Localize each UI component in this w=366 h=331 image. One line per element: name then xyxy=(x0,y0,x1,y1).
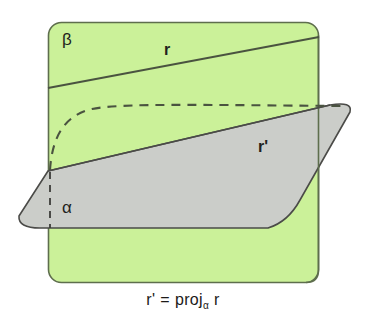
projection-figure: β α r r' r'=projαr xyxy=(0,0,366,331)
caption-equals: = xyxy=(160,291,170,308)
label-plane-beta: β xyxy=(62,30,72,49)
caption-lhs: r' xyxy=(146,291,155,308)
caption-argument: r xyxy=(214,291,220,308)
label-line-r-prime: r' xyxy=(258,138,268,155)
geometry-diagram: β α r r' xyxy=(0,0,366,331)
figure-caption: r'=projαr xyxy=(0,291,366,311)
label-plane-alpha: α xyxy=(62,198,72,217)
caption-operator: proj xyxy=(175,291,203,308)
caption-subscript: α xyxy=(203,300,209,311)
label-line-r: r xyxy=(164,41,170,58)
